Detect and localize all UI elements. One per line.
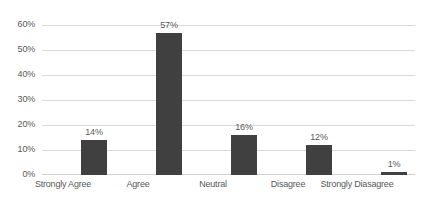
plot-area: 14% 57% 16% 12% 1% <box>42 25 415 175</box>
bar-value-label: 12% <box>310 132 327 142</box>
bar-value-label: 57% <box>160 20 177 30</box>
gridline-50 <box>42 50 415 51</box>
gridline-40 <box>42 75 415 76</box>
y-axis-tick-label: 50% <box>1 45 35 54</box>
x-axis-tick-label-disagree: Disagree <box>245 179 331 190</box>
bar-neutral[interactable] <box>231 135 257 175</box>
y-axis-tick-label: 0% <box>1 170 35 179</box>
gridline-30 <box>42 100 415 101</box>
x-axis-tick-label-strongly-agree: Strongly Agree <box>20 179 106 190</box>
y-axis-tick-label: 40% <box>1 70 35 79</box>
gridline-20 <box>42 125 415 126</box>
gridline-60 <box>42 25 415 26</box>
x-axis-tick-label-strongly-diasagree: Strongly Diasagree <box>320 179 394 190</box>
bar-chart: 60% 50% 40% 30% 20% 10% 0% 14% 57% 16% 1… <box>0 0 424 221</box>
bar-value-label: 16% <box>235 122 252 132</box>
bar-strongly-agree[interactable] <box>81 140 107 175</box>
bar-strongly-diasagree[interactable] <box>381 172 407 175</box>
x-axis-tick-label-agree: Agree <box>95 179 181 190</box>
x-axis-tick-label-neutral: Neutral <box>170 179 256 190</box>
y-axis-tick-label: 20% <box>1 120 35 129</box>
bar-value-label: 1% <box>388 159 401 169</box>
y-axis-tick-label: 60% <box>1 20 35 29</box>
bar-agree[interactable] <box>156 33 182 175</box>
bar-disagree[interactable] <box>306 145 332 175</box>
y-axis-tick-label: 30% <box>1 95 35 104</box>
bar-value-label: 14% <box>85 127 102 137</box>
y-axis-tick-label: 10% <box>1 145 35 154</box>
